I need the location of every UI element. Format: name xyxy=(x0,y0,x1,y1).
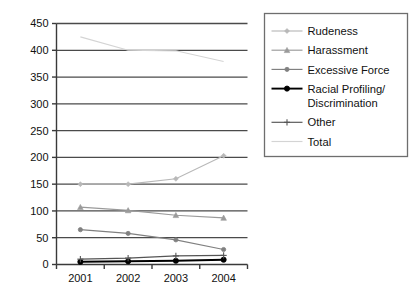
data-point xyxy=(174,238,178,242)
x-tick-label: 2003 xyxy=(164,272,188,284)
y-tick-label: 100 xyxy=(30,205,48,217)
y-tick-label: 400 xyxy=(30,44,48,56)
line-chart-figure: 050100150200250300350400450 200120022003… xyxy=(0,0,413,290)
legend-item-label: Excessive Force xyxy=(308,64,390,76)
y-tick-label: 450 xyxy=(30,17,48,29)
legend-item-label: Other xyxy=(308,116,336,128)
x-tick-label: 2004 xyxy=(211,272,235,284)
legend-item-label: Total xyxy=(308,136,332,148)
y-tick-label: 200 xyxy=(30,151,48,163)
y-tick-label: 0 xyxy=(42,258,48,270)
data-point xyxy=(126,231,130,235)
y-tick-label: 250 xyxy=(30,125,48,137)
chart-legend: RudenessHarassmentExcessive ForceRacial … xyxy=(265,14,408,157)
data-point xyxy=(222,247,226,251)
chart-canvas: 050100150200250300350400450 200120022003… xyxy=(0,0,413,290)
legend-item-label: Harassment xyxy=(308,44,369,56)
data-point xyxy=(78,228,82,232)
x-tick-label: 2002 xyxy=(116,272,140,284)
legend-sample-marker xyxy=(285,67,289,71)
x-tick-label: 2001 xyxy=(68,272,92,284)
legend-sample-marker xyxy=(284,86,289,91)
legend-item-label: Rudeness xyxy=(308,25,359,37)
legend-item-label: Discrimination xyxy=(308,97,378,109)
y-tick-label: 300 xyxy=(30,98,48,110)
y-tick-label: 150 xyxy=(30,178,48,190)
y-tick-label: 50 xyxy=(36,232,48,244)
y-tick-label: 350 xyxy=(30,71,48,83)
legend-item-label: Racial Profiling/ xyxy=(308,83,387,95)
legend-item[interactable]: Discrimination xyxy=(308,97,378,109)
